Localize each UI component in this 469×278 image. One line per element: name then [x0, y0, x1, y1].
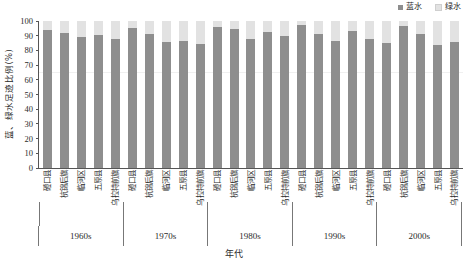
category-label-text: 磴口县 [126, 170, 137, 191]
x-axis-category-labels: 磴口县杭锦后旗临河区五原县乌拉特前旗磴口县杭锦后旗临河区五原县乌拉特前旗磴口县杭… [38, 170, 462, 226]
bar-segment-green-water [433, 21, 442, 45]
y-tick-label: 90 [25, 31, 34, 41]
stacked-bar[interactable] [94, 21, 103, 168]
bar-segment-blue-water [450, 42, 459, 168]
category-label-text: 磴口县 [380, 170, 391, 191]
stacked-bar[interactable] [348, 21, 357, 168]
decade-cell-1970s: 1970s [124, 226, 209, 246]
category-label-text: 五原县 [177, 170, 188, 191]
stacked-bar[interactable] [365, 21, 374, 168]
y-tick-label: 20 [25, 134, 34, 144]
stacked-bar[interactable] [196, 21, 205, 168]
category-label-text: 五原县 [346, 170, 357, 191]
stacked-bar[interactable] [314, 21, 323, 168]
decade-label: 1970s [155, 231, 177, 241]
stacked-bar[interactable] [43, 21, 52, 168]
y-tick-label: 100 [20, 16, 33, 26]
x-axis-title: 年代 [0, 247, 469, 260]
category-label-cell: 杭锦后旗 [59, 170, 68, 226]
y-tick-70: 70 [25, 60, 40, 70]
y-tick-50: 50 [25, 90, 40, 100]
bar-segment-green-water [263, 21, 272, 32]
category-label-text: 磴口县 [295, 170, 306, 191]
bar-segment-blue-water [128, 28, 137, 168]
bar-segment-blue-water [433, 45, 442, 168]
bar-segment-blue-water [60, 33, 69, 168]
stacked-bar[interactable] [399, 21, 408, 168]
category-label-cell: 杭锦后旗 [313, 170, 322, 226]
category-label-text: 磴口县 [41, 170, 52, 191]
category-label-text: 乌拉特前旗 [109, 170, 120, 206]
stacked-bar[interactable] [179, 21, 188, 168]
legend-entry-2[interactable]: 绿水 [435, 3, 461, 11]
stacked-bar[interactable] [382, 21, 391, 168]
category-label-text: 杭锦后旗 [143, 170, 154, 198]
bar-segment-blue-water [246, 39, 255, 168]
legend-label: 绿水 [445, 3, 461, 11]
bar-segment-blue-water [213, 27, 222, 168]
bar-segment-green-water [331, 21, 340, 41]
category-label-cell: 五原县 [347, 170, 356, 226]
bar-segment-blue-water [348, 31, 357, 168]
legend-swatch-icon [435, 4, 442, 11]
plot-area: 1009080706050403020100 [38, 21, 463, 169]
category-label-cell: 磴口县 [381, 170, 390, 226]
bar-segment-green-water [314, 21, 323, 33]
bar-group-1980s [209, 21, 294, 168]
category-label-cell: 磴口县 [42, 170, 51, 226]
y-tick-label: 60 [25, 75, 34, 85]
y-tick-label: 80 [25, 45, 34, 55]
category-label-text: 五原县 [92, 170, 103, 191]
chart-container: 蓝水绿水 蓝、绿水足迹比例(%) 1009080706050403020100 … [0, 0, 469, 278]
stacked-bar[interactable] [331, 21, 340, 168]
plot-inner: 1009080706050403020100 [39, 21, 463, 168]
stacked-bar[interactable] [128, 21, 137, 168]
bar-segment-blue-water [230, 29, 239, 168]
bar-segment-green-water [162, 21, 171, 42]
stacked-bar[interactable] [280, 21, 289, 168]
decade-separator-stem [292, 202, 293, 226]
stacked-bar[interactable] [111, 21, 120, 168]
y-tick-100: 100 [20, 16, 39, 26]
stacked-bar[interactable] [450, 21, 459, 168]
stacked-bar[interactable] [77, 21, 86, 168]
decade-label: 1960s [70, 231, 92, 241]
stacked-bar[interactable] [246, 21, 255, 168]
bar-segment-green-water [416, 21, 425, 33]
category-label-cell: 五原县 [432, 170, 441, 226]
stacked-bar[interactable] [230, 21, 239, 168]
category-label-text: 临河区 [244, 170, 255, 191]
stacked-bar[interactable] [162, 21, 171, 168]
bar-group-2000s [378, 21, 463, 168]
category-label-cell: 乌拉特前旗 [110, 170, 119, 226]
bar-segment-green-water [230, 21, 239, 29]
bar-segment-green-water [145, 21, 154, 33]
stacked-bar[interactable] [60, 21, 69, 168]
category-label-cell: 杭锦后旗 [229, 170, 238, 226]
stacked-bar[interactable] [263, 21, 272, 168]
decade-cell-1980s: 1980s [208, 226, 293, 246]
stacked-bar[interactable] [145, 21, 154, 168]
stacked-bar[interactable] [433, 21, 442, 168]
bar-segment-blue-water [382, 43, 391, 168]
y-tick-40: 40 [25, 104, 40, 114]
bar-segment-green-water [196, 21, 205, 44]
category-label-cell: 磴口县 [127, 170, 136, 226]
y-tick-80: 80 [25, 45, 40, 55]
category-label-group-2000s: 磴口县杭锦后旗临河区五原县乌拉特前旗 [377, 170, 462, 226]
decade-cell-1960s: 1960s [38, 226, 124, 246]
legend-entry-1[interactable]: 蓝水 [398, 3, 422, 11]
y-tick-label: 40 [25, 104, 34, 114]
y-tick-label: 0 [29, 163, 33, 173]
stacked-bar[interactable] [297, 21, 306, 168]
bar-segment-blue-water [314, 34, 323, 169]
bar-segment-blue-water [43, 30, 52, 168]
category-label-cell: 磴口县 [296, 170, 305, 226]
bar-groups [39, 21, 463, 168]
bar-segment-blue-water [416, 34, 425, 169]
category-label-cell: 乌拉特前旗 [364, 170, 373, 226]
category-label-cell: 临河区 [161, 170, 170, 226]
bar-segment-blue-water [331, 41, 340, 168]
stacked-bar[interactable] [416, 21, 425, 168]
stacked-bar[interactable] [213, 21, 222, 168]
